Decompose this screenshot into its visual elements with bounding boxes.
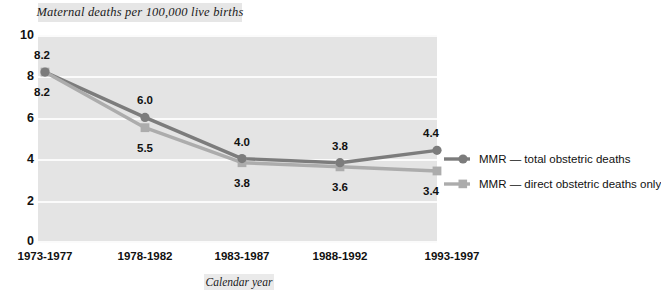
series-line-total-obstetric-deaths [45, 72, 437, 163]
data-label-total-1988-1992: 3.8 [332, 140, 348, 152]
data-label-direct-1988-1992: 3.6 [332, 181, 348, 193]
legend-item-total-obstetric-deaths[interactable]: MMR — total obstetric deaths [444, 152, 630, 166]
data-label-direct-1973-1977: 8.2 [34, 86, 50, 98]
data-label-total-1973-1977: 8.2 [34, 49, 50, 61]
data-label-total-1993-1997: 4.4 [423, 127, 439, 139]
legend-swatch-circle [444, 152, 470, 166]
data-label-direct-1983-1987: 3.8 [234, 177, 250, 189]
legend-label-direct-obstetric-deaths: MMR — direct obstetric deaths only [479, 178, 661, 190]
data-label-total-1978-1982: 6.0 [137, 94, 153, 106]
data-label-direct-1993-1997: 3.4 [423, 185, 439, 197]
series-markers-total-obstetric-deaths [40, 67, 441, 167]
data-label-direct-1978-1982: 5.5 [137, 142, 153, 154]
legend-label-total-obstetric-deaths: MMR — total obstetric deaths [479, 153, 630, 165]
data-label-total-1983-1987: 4.0 [234, 136, 250, 148]
legend-swatch-square [444, 177, 470, 191]
legend-item-direct-obstetric-deaths[interactable]: MMR — direct obstetric deaths only [444, 177, 661, 191]
